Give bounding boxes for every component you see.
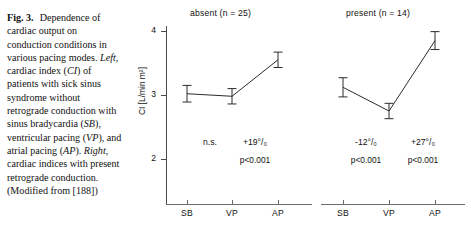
series-line-present <box>343 41 435 111</box>
annot-p-vp-ap-absent: p<0.001 <box>227 155 283 165</box>
figure-number: Fig. 3. <box>7 12 34 23</box>
datapoint-ap-absent <box>274 52 283 67</box>
caption-body: Dependence of cardiac output on conducti… <box>7 12 121 196</box>
annot-pct-vp-ap-absent: +19°/₀ <box>227 137 283 147</box>
figure-container: Fig. 3.Dependence of cardiac output on c… <box>0 0 471 244</box>
panel-absent: absent (n = 25) CI [L/min m²] 4 3 2 SB V… <box>128 0 313 244</box>
datapoint-ap-present <box>431 32 440 50</box>
annot-pct-vp-ap-present: +27°/₀ <box>395 137 451 147</box>
data-plot-present <box>313 0 471 244</box>
figure-caption: Fig. 3.Dependence of cardiac output on c… <box>7 11 123 197</box>
annot-p-vp-ap-present: p<0.001 <box>395 155 451 165</box>
annot-pct-sb-vp-present: -12°/₀ <box>338 137 394 147</box>
annot-p-sb-vp-present: p<0.001 <box>338 155 394 165</box>
datapoint-sb-present <box>339 78 348 97</box>
data-plot-absent <box>128 0 313 244</box>
panel-present: present (n = 14) SB VP AP -12°/₀ p<0.001… <box>313 0 471 244</box>
